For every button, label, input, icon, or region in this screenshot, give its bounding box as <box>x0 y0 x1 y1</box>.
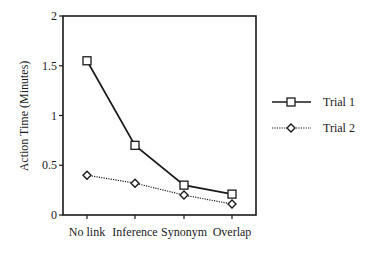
legend-label: Trial 1 <box>323 95 355 109</box>
series-trial-1 <box>83 57 236 198</box>
y-axis: 00.511.52 <box>42 9 63 222</box>
series-layer <box>83 57 236 208</box>
plot-frame <box>63 16 256 215</box>
line-chart: 00.511.52 No linkInferenceSynonymOverlap… <box>0 0 370 253</box>
square-marker-icon <box>131 141 139 149</box>
legend: Trial 1 Trial 2 <box>272 95 355 135</box>
legend-item-trial-2: Trial 2 <box>272 121 355 135</box>
x-tick-label: No link <box>69 225 105 239</box>
diamond-marker-icon <box>287 124 295 132</box>
y-tick-label: 1.5 <box>42 59 57 73</box>
y-tick-label: 1 <box>51 109 57 123</box>
x-tick-label: Synonym <box>161 225 208 239</box>
series-trial-2 <box>83 171 236 208</box>
square-marker-icon <box>180 181 188 189</box>
square-marker-icon <box>228 190 236 198</box>
legend-label: Trial 2 <box>323 121 355 135</box>
legend-item-trial-1: Trial 1 <box>272 95 355 109</box>
diamond-marker-icon <box>131 179 139 187</box>
y-tick-label: 0.5 <box>42 158 57 172</box>
y-tick-label: 0 <box>51 208 57 222</box>
y-tick-label: 2 <box>51 9 57 23</box>
diamond-marker-icon <box>228 200 236 208</box>
x-tick-label: Inference <box>112 225 157 239</box>
diamond-marker-icon <box>83 171 91 179</box>
y-axis-label: Action Time (Minutes) <box>17 61 31 172</box>
diamond-marker-icon <box>180 191 188 199</box>
square-marker-icon <box>287 98 295 106</box>
x-axis: No linkInferenceSynonymOverlap <box>69 215 252 239</box>
x-tick-label: Overlap <box>213 225 252 239</box>
square-marker-icon <box>83 57 91 65</box>
